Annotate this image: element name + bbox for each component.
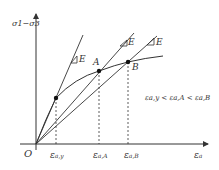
point-a <box>97 69 101 73</box>
point-b <box>126 60 130 64</box>
slope-label-3: E <box>156 38 163 47</box>
secant-line-a <box>36 33 134 144</box>
stress-strain-diagram: σ1−σ3 O εa E E E A B εa,y εa,A εa,B εa,y… <box>0 0 219 170</box>
point-a-label: A <box>93 58 100 67</box>
point-b-label: B <box>132 63 139 72</box>
origin-label: O <box>24 149 32 159</box>
inequality-text: εa,y < εa,A < εa,B <box>145 95 210 102</box>
slope-label-1: E <box>79 55 86 64</box>
y-axis-label: σ1−σ3 <box>12 20 40 28</box>
tick-label-b: εa,B <box>124 151 139 160</box>
slope-label-2: E <box>128 38 135 47</box>
x-axis-label: εa <box>194 151 202 160</box>
tick-label-a: εa,A <box>93 151 108 160</box>
slope-triangle-3 <box>147 38 154 45</box>
slope-triangle-1 <box>71 56 77 63</box>
secant-line-b <box>36 36 157 144</box>
tick-label-ya: εa,y <box>50 151 64 160</box>
point-yield <box>54 96 58 100</box>
